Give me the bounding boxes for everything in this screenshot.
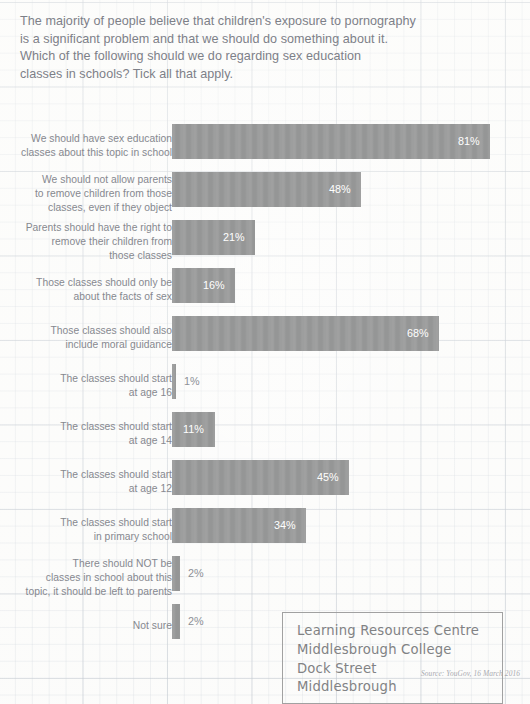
chart-row-label-line: The classes should start	[0, 420, 172, 434]
chart-row-label-line: in primary school	[0, 530, 172, 544]
stamp-line: Learning Resources Centre	[297, 622, 502, 641]
chart-bar-value: 16%	[203, 268, 225, 303]
chart-bar-value: 2%	[188, 604, 204, 639]
chart-row-label: The classes should startat age 16	[0, 372, 172, 400]
chart-row-label-line: We should not allow parents	[0, 173, 172, 187]
chart-bar-value: 81%	[458, 124, 480, 159]
chart-row-label: Not sure	[0, 619, 172, 633]
chart-row-label-line: at age 16	[0, 386, 172, 400]
chart-row-label: The classes should startat age 12	[0, 468, 172, 496]
chart-row-label: There should NOT beclasses in school abo…	[0, 557, 172, 599]
chart-row-label: We should have sex educationclasses abou…	[0, 132, 172, 160]
chart-bar-value: 21%	[223, 220, 245, 255]
chart-row-label-line: at age 12	[0, 482, 172, 496]
chart-row-label-line: We should have sex education	[0, 132, 172, 146]
chart-row-label-line: include moral guidance	[0, 338, 172, 352]
chart-bar-value: 11%	[183, 412, 204, 447]
source-note: Source: YouGov, 16 March 2016	[421, 669, 520, 678]
chart-row-label-line: about the facts of sex	[0, 290, 172, 304]
chart-row-label-line: Not sure	[0, 619, 172, 633]
chart-bar-value: 34%	[274, 508, 296, 543]
chart-row-label-line: to remove children from those	[0, 187, 172, 201]
chart-row-label: The classes should startat age 14	[0, 420, 172, 448]
chart-row-label-line: classes in school about this	[0, 571, 172, 585]
chart-bar	[172, 316, 439, 351]
chart-row-label: Those classes should only beabout the fa…	[0, 276, 172, 304]
chart-bar-value: 48%	[329, 172, 351, 207]
chart-bar	[172, 604, 180, 639]
question-line: The majority of people believe that chil…	[20, 13, 460, 31]
chart-bar	[172, 556, 180, 591]
chart-bar-value: 45%	[317, 460, 339, 495]
question-line: classes in schools? Tick all that apply.	[20, 66, 460, 84]
chart-row-label-line: remove their children from	[0, 235, 172, 249]
chart-row-label: Those classes should alsoinclude moral g…	[0, 324, 172, 352]
chart-row-label-line: The classes should start	[0, 468, 172, 482]
chart-row-label-line: Those classes should also	[0, 324, 172, 338]
stamp-line: Middlesbrough College	[297, 641, 502, 660]
chart-row-label-line: Those classes should only be	[0, 276, 172, 290]
chart-bar	[172, 364, 176, 399]
chart-row-label-line: classes, even if they object	[0, 201, 172, 215]
chart-row-label-line: classes about this topic in school	[0, 146, 172, 160]
chart-row-label: We should not allow parentsto remove chi…	[0, 173, 172, 215]
chart-row-label-line: There should NOT be	[0, 557, 172, 571]
chart-bar	[172, 124, 490, 159]
chart-row-label-line: Parents should have the right to	[0, 221, 172, 235]
question-line: is a significant problem and that we sho…	[20, 31, 460, 49]
chart-bar-value: 68%	[407, 316, 429, 351]
chart-bar-value: 2%	[188, 556, 204, 591]
chart-row-label: The classes should startin primary schoo…	[0, 516, 172, 544]
chart-row-label-line: at age 14	[0, 434, 172, 448]
bar-chart: We should have sex educationclasses abou…	[0, 110, 530, 650]
stamp-line: Middlesbrough	[297, 678, 502, 697]
chart-row-label-line: The classes should start	[0, 372, 172, 386]
chart-row-label-line: those classes	[0, 249, 172, 263]
library-stamp: Learning Resources Centre Middlesbrough …	[282, 612, 503, 704]
question-line: Which of the following should we do rega…	[20, 48, 460, 66]
chart-row-label: Parents should have the right toremove t…	[0, 221, 172, 263]
chart-row-label-line: topic, it should be left to parents	[0, 585, 172, 599]
chart-bar-value: 1%	[184, 364, 200, 399]
question-text: The majority of people believe that chil…	[20, 13, 460, 83]
chart-page: The majority of people believe that chil…	[0, 0, 530, 704]
chart-row-label-line: The classes should start	[0, 516, 172, 530]
